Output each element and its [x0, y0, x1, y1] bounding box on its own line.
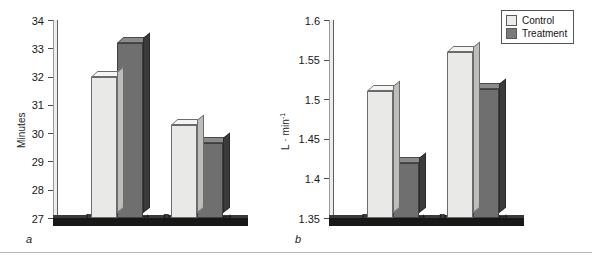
- y-tick-a-3: 30: [48, 133, 53, 134]
- y-tick-b-2: 1.45: [324, 139, 329, 140]
- y-tick-label-a-2: 29: [32, 156, 44, 168]
- legend-item-treatment: Treatment: [506, 27, 567, 40]
- y-tick-a-4: 31: [48, 105, 53, 106]
- y-tick-a-7: 34: [48, 20, 53, 21]
- light-gray-swatch-icon: [506, 15, 517, 26]
- y-tick-a-5: 32: [48, 77, 53, 78]
- y-tick-label-b-0: 1.35: [299, 213, 320, 225]
- plot-area-a: 2728293031323334: [53, 20, 248, 218]
- bar-side: [393, 81, 400, 213]
- panel-letter-b: b: [295, 233, 301, 245]
- bar-side: [143, 32, 150, 213]
- bar-side: [117, 66, 124, 213]
- y-tick-label-a-6: 33: [32, 43, 44, 55]
- y-tick-b-1: 1.4: [324, 178, 329, 179]
- y-axis-title-a: Minutes: [16, 112, 27, 148]
- legend: ControlTreatment: [501, 10, 574, 44]
- bar-side: [197, 114, 204, 213]
- bar-face: [367, 91, 393, 218]
- bar-b-posttreatment-control: [447, 52, 473, 218]
- y-tick-label-a-4: 31: [32, 99, 44, 111]
- bar-side: [419, 152, 426, 213]
- bar-side: [499, 78, 506, 213]
- y-tick-b-5: 1.6: [324, 20, 329, 21]
- y-axis-title-b-base: L · min: [280, 119, 291, 150]
- y-tick-a-1: 28: [48, 190, 53, 191]
- y-tick-label-b-5: 1.6: [305, 15, 320, 27]
- bar-a-posttreatment-control: [171, 125, 197, 218]
- y-tick-label-b-2: 1.45: [299, 133, 320, 145]
- y-tick-label-a-3: 30: [32, 128, 44, 140]
- bar-side: [223, 133, 230, 213]
- panel-letter-a: a: [26, 233, 32, 245]
- y-tick-b-4: 1.55: [324, 60, 329, 61]
- y-tick-label-a-5: 32: [32, 71, 44, 83]
- y-tick-label-a-0: 27: [32, 213, 44, 225]
- bar-b-pretreatment-control: [367, 91, 393, 218]
- y-tick-a-2: 29: [48, 161, 53, 162]
- y-tick-label-b-3: 1.5: [305, 94, 320, 106]
- y-axis-title-b: L · min-1: [279, 113, 291, 150]
- dark-gray-swatch-icon: [506, 28, 517, 39]
- bar-face: [91, 77, 117, 218]
- plot-area-b: 1.351.41.451.51.551.6: [329, 20, 524, 218]
- legend-label-treatment: Treatment: [522, 28, 567, 39]
- y-axis-line-b: [329, 20, 334, 218]
- y-tick-label-b-4: 1.55: [299, 54, 320, 66]
- bar-a-pretreatment-control: [91, 77, 117, 218]
- y-axis-title-b-superscript: -1: [279, 113, 286, 119]
- y-axis-line-a: [53, 20, 58, 218]
- y-tick-label-b-1: 1.4: [305, 173, 320, 185]
- y-tick-a-6: 33: [48, 48, 53, 49]
- y-tick-label-a-7: 34: [32, 15, 44, 27]
- bar-face: [171, 125, 197, 218]
- figure-canvas: Minutes 2728293031323334 PretreatmentPos…: [0, 0, 592, 261]
- legend-item-control: Control: [506, 14, 567, 27]
- bar-side: [473, 41, 480, 213]
- bar-face: [447, 52, 473, 218]
- y-tick-b-3: 1.5: [324, 99, 329, 100]
- legend-label-control: Control: [522, 15, 554, 26]
- chart-panel-a: Minutes 2728293031323334 PretreatmentPos…: [0, 0, 296, 261]
- figure-bottom-rule: [0, 252, 592, 253]
- y-tick-label-a-1: 28: [32, 184, 44, 196]
